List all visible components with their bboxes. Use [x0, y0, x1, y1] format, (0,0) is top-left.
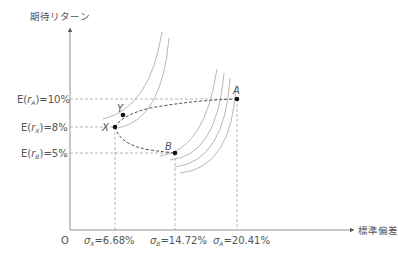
y-axis-label: 期待リターン	[30, 11, 90, 22]
frontier-curve-upper	[115, 99, 237, 127]
point-A	[235, 97, 240, 102]
point-X-label: X	[101, 122, 110, 133]
y-label-X: E(rX)=8%	[21, 122, 68, 134]
x-label-B: σB=14.72%	[150, 235, 207, 247]
y-label-A: E(rA)=10%	[17, 94, 70, 106]
point-X	[113, 125, 118, 130]
x-label-X: σX=6.68%	[84, 235, 135, 247]
indifference-curve-1	[103, 32, 162, 119]
point-B	[173, 151, 178, 156]
portfolio-diagram: 期待リターン 標準偏差 O A Y X B E(rA)=10% E(rX)=8%	[0, 0, 398, 255]
indifference-curve-2	[118, 38, 169, 128]
x-label-A: σA=20.41%	[213, 235, 270, 247]
indifference-curve-4	[170, 73, 224, 160]
y-label-B: E(rB)=5%	[21, 148, 68, 160]
x-axis-label: 標準偏差	[358, 225, 398, 236]
origin-label: O	[61, 235, 69, 246]
point-A-label: A	[232, 85, 240, 96]
point-Y-label: Y	[117, 103, 124, 114]
point-B-label: B	[165, 141, 172, 152]
